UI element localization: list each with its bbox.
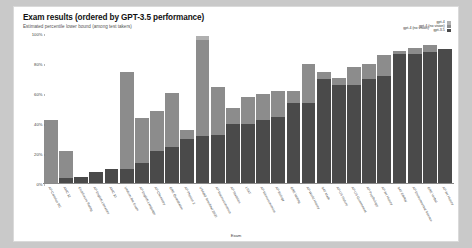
- bar[interactable]: [256, 34, 270, 184]
- bar[interactable]: [377, 34, 391, 184]
- bar-segment-gpt35: [347, 85, 361, 184]
- bar-segment-gpt4-no-vision: [332, 78, 346, 86]
- bar-segment-gpt4-no-vision: [150, 111, 164, 152]
- bar[interactable]: [44, 34, 58, 184]
- x-axis-label: GRE Quantitative: [165, 185, 179, 231]
- legend-swatch-gpt4: [447, 21, 451, 24]
- x-axis-label: AP English Language: [135, 185, 149, 231]
- x-axis-label: AP Psychology: [362, 185, 376, 231]
- bar[interactable]: [423, 34, 437, 184]
- bar-segment-gpt35: [408, 54, 422, 185]
- bar[interactable]: [150, 34, 164, 184]
- bar[interactable]: [287, 34, 301, 184]
- x-axis-label: AP Art History: [377, 185, 391, 231]
- x-axis-label: AMC 10: [105, 185, 119, 231]
- bar-segment-gpt4-no-vision: [287, 91, 301, 103]
- legend-swatch-gpt4-no-vision: [447, 25, 451, 28]
- x-axis-line: [43, 183, 454, 184]
- x-axis-label: AMC 12: [59, 185, 73, 231]
- bar-segment-gpt35: [150, 151, 164, 184]
- bar-segment-gpt35: [271, 117, 285, 185]
- bar-segment-gpt35: [89, 172, 103, 184]
- x-axis-label-text: GRE Verbal: [426, 186, 438, 203]
- bar-segment-gpt35: [226, 124, 240, 184]
- bar-segment-gpt35: [120, 169, 134, 184]
- bar-segment-gpt4-no-vision: [180, 130, 194, 139]
- legend-labels: gpt-4 gpt-4 (no vision) gpt-3.5: [419, 21, 445, 33]
- x-axis-title: Exam: [14, 233, 458, 238]
- bar[interactable]: [438, 34, 452, 184]
- bar-segment-gpt4-no-vision: [256, 94, 270, 120]
- bar[interactable]: [302, 34, 316, 184]
- bar[interactable]: [196, 34, 210, 184]
- bar-segment-gpt4-no-vision: [302, 64, 316, 103]
- bar-segment-gpt4-no-vision: [317, 72, 331, 80]
- bar-segment-gpt35: [211, 135, 225, 185]
- chart-title: Exam results (ordered by GPT-3.5 perform…: [23, 13, 204, 22]
- bar[interactable]: [165, 34, 179, 184]
- y-axis-tick: 100%: [32, 32, 44, 37]
- bar[interactable]: [74, 34, 88, 184]
- x-axis-label: AP Art History: [438, 185, 452, 231]
- bar[interactable]: [120, 34, 134, 184]
- bar[interactable]: [347, 34, 361, 184]
- bar-segment-gpt35: [135, 163, 149, 184]
- bar[interactable]: [332, 34, 346, 184]
- chart-card: Exam results (ordered by GPT-3.5 perform…: [13, 6, 459, 242]
- x-axis-label-text: AMC 12: [63, 186, 72, 198]
- x-axis-label: AP US Government: [347, 185, 361, 231]
- bar-segment-gpt4-no-vision: [59, 151, 73, 178]
- x-axis-label: AP Calculus BC: [44, 185, 58, 231]
- x-axis-label: AP Macroeconomics: [211, 185, 225, 231]
- bar-segment-gpt4-no-vision: [271, 91, 285, 117]
- bar[interactable]: [271, 34, 285, 184]
- x-axis-label: GRE Verbal: [423, 185, 437, 231]
- bar-segment-gpt35: [362, 79, 376, 184]
- x-axis-label: LSAT: [241, 185, 255, 231]
- bar-segment-gpt35: [196, 136, 210, 184]
- bar[interactable]: [211, 34, 225, 184]
- bar[interactable]: [59, 34, 73, 184]
- x-axis-label: AP Biology: [271, 185, 285, 231]
- bar[interactable]: [362, 34, 376, 184]
- x-axis-label-text: AMC 10: [108, 186, 117, 198]
- x-axis-label-text: AP Biology: [275, 186, 286, 202]
- x-axis-label: Codeforces Rating: [74, 185, 88, 231]
- bar[interactable]: [105, 34, 119, 184]
- y-axis-tick: 20%: [34, 152, 44, 157]
- bar-segment-gpt35: [393, 54, 407, 185]
- bar-segment-gpt35: [180, 139, 194, 184]
- bar[interactable]: [180, 34, 194, 184]
- x-axis-label-text: GRE Writing: [290, 186, 302, 204]
- bar-segment-gpt35: [377, 76, 391, 184]
- legend-swatch-gpt35: [447, 29, 451, 32]
- bar-segment-gpt4-no-vision: [362, 64, 376, 79]
- x-axis-label: AP Environmental Science: [408, 185, 422, 231]
- x-axis-label-text: SAT Math: [320, 186, 330, 201]
- bar-segment-gpt4-no-vision: [423, 45, 437, 53]
- bar[interactable]: [89, 34, 103, 184]
- y-axis-tick: 80%: [34, 62, 44, 67]
- bar-segment-gpt4-no-vision: [135, 118, 149, 163]
- bar-segment-gpt35: [105, 169, 119, 184]
- bar[interactable]: [317, 34, 331, 184]
- bar[interactable]: [135, 34, 149, 184]
- bar-segment-gpt35: [287, 103, 301, 184]
- x-axis-label-text: SAT EBRW: [396, 186, 407, 203]
- bar-segment-gpt35: [423, 52, 437, 184]
- x-axis-label-text: AP Art History: [441, 186, 454, 206]
- bar[interactable]: [226, 34, 240, 184]
- bar[interactable]: [408, 34, 422, 184]
- x-axis-label: GRE Writing: [287, 185, 301, 231]
- bar-segment-gpt35: [256, 120, 270, 185]
- x-axis-label: AP English Literature: [89, 185, 103, 231]
- bar-segment-gpt4-no-vision: [196, 40, 210, 136]
- x-axis-label: AP Physics 2: [180, 185, 194, 231]
- bar-segment-gpt4-no-vision: [347, 67, 361, 85]
- bar[interactable]: [241, 34, 255, 184]
- x-axis-label: AP US History: [332, 185, 346, 231]
- bar[interactable]: [393, 34, 407, 184]
- x-axis-label: USABO Semifinal 2020: [196, 185, 210, 231]
- x-axis-label-text: AP Statistics: [229, 186, 241, 204]
- bar-segment-gpt4-no-vision: [120, 72, 134, 170]
